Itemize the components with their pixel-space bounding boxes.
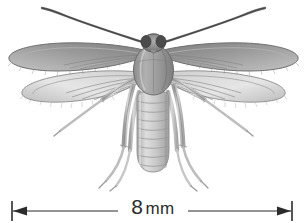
eye-right [156, 36, 166, 48]
antenna-right [159, 8, 265, 44]
leg-left-mid [99, 86, 133, 188]
arrow-right-icon [277, 207, 291, 216]
leg-right-mid [174, 86, 208, 188]
hindwing-right [167, 71, 287, 108]
abdomen [137, 92, 169, 172]
insect-illustration-svg [0, 0, 306, 223]
eye-left [141, 36, 151, 48]
arrow-left-icon [13, 207, 27, 216]
hindwing-left [20, 71, 140, 108]
scale-bar [12, 201, 292, 221]
insect-scale-figure [0, 0, 306, 223]
antenna-left [42, 8, 148, 44]
